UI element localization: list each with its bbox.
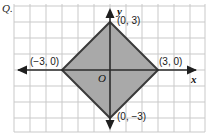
problem-number-label: Q. xyxy=(2,2,13,14)
vertex-label-left: (−3, 0) xyxy=(30,56,59,67)
x-axis-left-arrow-icon xyxy=(17,66,27,75)
y-axis-up-arrow-icon xyxy=(106,8,115,18)
vertex-label-right: (3, 0) xyxy=(159,56,182,67)
coordinate-plane-graphic xyxy=(0,0,206,136)
coordinate-plane-figure: Q. xyxy=(0,0,206,136)
vertex-label-bottom: (0, −3) xyxy=(117,111,146,122)
y-axis-label: y xyxy=(117,6,122,17)
x-axis-label: x xyxy=(191,74,197,85)
origin-label: O xyxy=(98,73,106,84)
y-axis-down-arrow-icon xyxy=(106,120,115,130)
